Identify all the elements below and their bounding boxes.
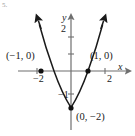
point-vertex: [68, 105, 73, 110]
parabola-plot: [0, 0, 135, 136]
y-tick-label-2: 2: [61, 24, 66, 34]
vertex-label: (0, −2): [76, 112, 105, 123]
y-axis-label: y: [62, 13, 66, 23]
graph-figure: 5. y x 2 −1 −2 2 (−1, 0) (1, 0) (0, −2): [0, 0, 135, 136]
point-right-intercept: [85, 68, 90, 73]
x-tick-label-2: 2: [107, 74, 112, 84]
right-intercept-label: (1, 0): [90, 51, 113, 62]
figure-number: 5.: [2, 2, 7, 9]
x-axis-label: x: [118, 62, 122, 72]
y-tick-label-negative-1: −1: [58, 90, 69, 100]
left-intercept-label: (−1, 0): [6, 51, 35, 62]
x-tick-label-negative-2: −2: [33, 74, 44, 84]
